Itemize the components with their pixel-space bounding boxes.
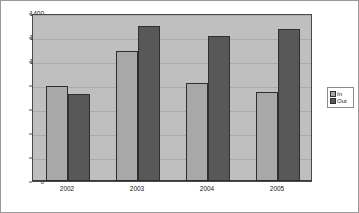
legend-entry-in[interactable]: In	[330, 91, 351, 97]
bar-chart: 0200400600800100012001400 20022003200420…	[0, 0, 359, 213]
gridline	[33, 15, 311, 16]
x-axis-tick-label: 2005	[270, 186, 284, 193]
legend-swatch-in-icon	[330, 91, 336, 97]
legend-label: Out	[337, 98, 347, 104]
gridline	[33, 39, 311, 40]
bar-out-2005	[278, 29, 300, 181]
bar-in-2005	[256, 92, 278, 181]
bar-in-2002	[46, 86, 68, 181]
chart-legend: InOut	[327, 87, 354, 108]
bar-in-2003	[116, 51, 138, 181]
x-axis-tick-label: 2002	[60, 186, 74, 193]
bar-out-2003	[138, 26, 160, 181]
bar-out-2004	[208, 36, 230, 181]
legend-swatch-out-icon	[330, 98, 336, 104]
x-axis-tick-label: 2004	[200, 186, 214, 193]
bar-out-2002	[68, 94, 90, 181]
x-axis-tick-label: 2003	[130, 186, 144, 193]
bar-in-2004	[186, 83, 208, 181]
gridline	[33, 87, 311, 88]
legend-entry-out[interactable]: Out	[330, 98, 351, 104]
gridline	[33, 63, 311, 64]
legend-label: In	[337, 91, 342, 97]
plot-area	[32, 14, 312, 182]
